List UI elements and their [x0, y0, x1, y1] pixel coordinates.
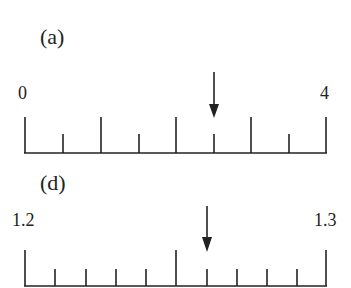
arrow-d-icon — [202, 206, 212, 252]
arrow-a-icon — [209, 72, 219, 118]
ruler-d — [24, 250, 327, 286]
ruler-a — [24, 117, 327, 153]
rulers-diagram — [0, 0, 351, 288]
